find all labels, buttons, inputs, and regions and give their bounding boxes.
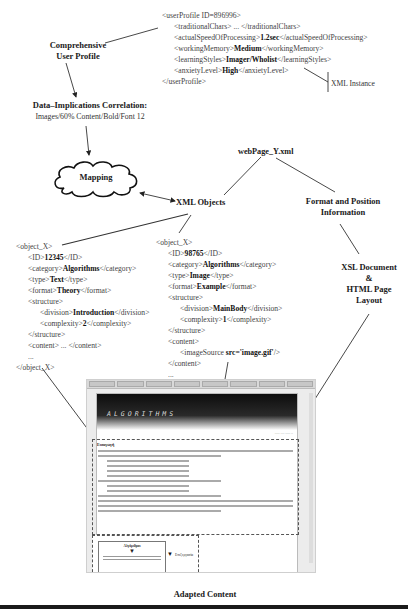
nav-links: ····· ···· ····· ·· [97, 430, 297, 438]
correlation-block: Data–Implications Correlation: Images/60… [20, 100, 160, 122]
down-arrow-icon: ▼ [167, 551, 173, 557]
xml-line: <workingMemory>Medium</workingMemory> [162, 43, 368, 54]
webpage-file-label: webPage_Y.xml [238, 146, 293, 157]
page-banner: ALGORITHMS [97, 394, 297, 430]
adapted-page-screenshot: ALGORITHMS ····· ···· ····· ·· Εισαγωγή … [86, 379, 316, 573]
xml-line: <actualSpeedOfProcessing>1.2sec</actualS… [162, 32, 368, 43]
object-x-xml: <object_X> <ID>12345</ID> <category>Algo… [16, 241, 149, 373]
bottom-rule [0, 605, 408, 609]
xml-line: <learningStyles>Imager/Wholist</learning… [162, 54, 368, 65]
format-position-label: Format and Position Information [300, 196, 386, 218]
banner-title: ALGORITHMS [107, 410, 176, 418]
correlation-value: Images/60% Content/Bold/Font 12 [20, 111, 160, 122]
xml-line: <anxietyLevel>High</anxietyLevel> [162, 65, 368, 76]
scrollbar [309, 393, 313, 563]
xsl-document-label: XSL Document & HTML Page Layout [336, 262, 402, 306]
xml-instance-label: XML Instance [331, 79, 375, 88]
mapping-label: Mapping [50, 172, 142, 182]
next-step-link: Επεξεργασία [175, 553, 193, 557]
xml-line: <traditionalChars> ... </traditionalChar… [162, 21, 368, 32]
adapted-image-region: Αλγόριθμοι ▼ ▼ Επεξεργασία [92, 535, 199, 573]
xml-open-tag: <userProfile ID=896996> [162, 10, 368, 21]
comprehensive-user-profile-label: Comprehensive User Profile [38, 40, 118, 62]
browser-tab-bar [87, 380, 315, 389]
correlation-title: Data–Implications Correlation: [20, 100, 160, 111]
adapted-text-region: Εισαγωγή [92, 439, 299, 535]
object-y-xml: <object_X> <ID>98765</ID> <category>Algo… [156, 237, 282, 391]
xml-objects-label: XML Objects [176, 197, 225, 208]
web-page: ALGORITHMS ····· ···· ····· ·· Εισαγωγή … [96, 393, 298, 573]
adapted-content-label: Adapted Content [150, 589, 260, 600]
section-heading: Εισαγωγή [93, 440, 298, 447]
user-profile-xml: <userProfile ID=896996> <traditionalChar… [162, 10, 368, 87]
image-box: Αλγόριθμοι ▼ [98, 541, 166, 573]
